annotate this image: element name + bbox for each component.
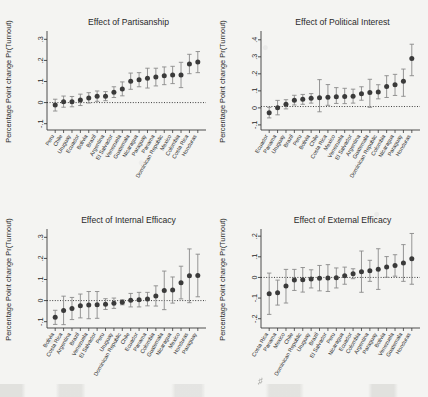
data-point-marker <box>78 303 83 308</box>
panel-internal-efficacy: Percentage Point change Pr(Turnout)Effec… <box>0 198 214 397</box>
y-tick-label: .1 <box>36 79 45 85</box>
data-point-marker <box>111 301 116 306</box>
data-point-marker <box>153 293 158 298</box>
y-tick-label: 0 <box>36 299 45 303</box>
data-point-marker <box>351 271 356 276</box>
data-point-marker <box>78 98 83 103</box>
data-point-marker <box>153 75 158 80</box>
y-tick-label: .2 <box>250 233 259 239</box>
y-tick-label: .3 <box>36 36 45 42</box>
data-point-marker <box>267 291 272 296</box>
data-point-marker <box>359 91 364 96</box>
data-point-marker <box>53 315 58 320</box>
data-point-marker <box>359 269 364 274</box>
data-point-marker <box>128 79 133 84</box>
y-axis-label: Percentage Point change Pr(Turnout) <box>218 218 227 341</box>
data-point-marker <box>292 277 297 282</box>
y-tick-label: -.1 <box>36 119 45 127</box>
data-point-marker <box>300 277 305 282</box>
panel-title: Effect of External Efficacy <box>294 215 392 225</box>
data-point-marker <box>409 256 414 261</box>
data-point-marker <box>95 94 100 99</box>
data-point-marker <box>342 273 347 278</box>
data-point-marker <box>275 105 280 110</box>
data-point-marker <box>351 94 356 99</box>
data-point-marker <box>86 303 91 308</box>
data-point-marker <box>292 98 297 103</box>
data-point-marker <box>69 99 74 104</box>
data-point-marker <box>145 76 150 81</box>
data-point-marker <box>53 103 58 108</box>
y-tick-label: -.1 <box>250 294 259 302</box>
y-tick-label: .3 <box>250 54 259 60</box>
data-point-marker <box>128 298 133 303</box>
y-tick-label: .3 <box>36 234 45 240</box>
data-point-marker <box>137 77 142 82</box>
data-point-marker <box>393 82 398 87</box>
y-axis-label: Percentage Point change Pr(Turnout) <box>218 20 227 143</box>
data-point-marker <box>137 297 142 302</box>
figure-panel-grid: Percentage Point change Pr(Turnout)Effec… <box>0 0 428 397</box>
y-tick-label: .2 <box>36 255 45 261</box>
data-point-marker <box>111 90 116 95</box>
data-point-marker <box>162 288 167 293</box>
y-tick-label: .2 <box>36 57 45 63</box>
data-point-marker <box>300 97 305 102</box>
data-point-marker <box>69 306 74 311</box>
y-tick-label: 0 <box>36 101 45 105</box>
data-point-marker <box>401 260 406 265</box>
y-axis-label: Percentage Point change Pr(Turnout) <box>4 20 13 143</box>
chart-political-interest: Percentage Point change Pr(Turnout)Effec… <box>214 0 428 198</box>
data-point-marker <box>334 94 339 99</box>
data-point-marker <box>61 99 66 104</box>
data-point-marker <box>401 79 406 84</box>
chart-internal-efficacy: Percentage Point change Pr(Turnout)Effec… <box>0 198 214 397</box>
data-point-marker <box>195 273 200 278</box>
panel-title: Effect of Internal Efficacy <box>81 215 176 225</box>
y-tick-label: .1 <box>250 254 259 260</box>
data-point-marker <box>162 73 167 78</box>
data-point-marker <box>187 273 192 278</box>
chart-external-efficacy: Percentage Point change Pr(Turnout)Effec… <box>214 198 428 397</box>
data-point-marker <box>367 268 372 273</box>
data-point-marker <box>275 290 280 295</box>
data-point-marker <box>309 96 314 101</box>
data-point-marker <box>120 86 125 91</box>
y-tick-label: .2 <box>250 71 259 77</box>
data-point-marker <box>376 267 381 272</box>
data-point-marker <box>179 72 184 77</box>
y-tick-label: .1 <box>250 88 259 94</box>
y-axis-label: Percentage Point change Pr(Turnout) <box>4 218 13 341</box>
data-point-marker <box>283 102 288 107</box>
data-point-marker <box>309 276 314 281</box>
data-point-marker <box>61 308 66 313</box>
y-tick-label: -.1 <box>36 317 45 325</box>
data-point-marker <box>267 110 272 115</box>
data-point-marker <box>376 90 381 95</box>
panel-title: Effect of Partisanship <box>88 17 169 27</box>
chart-partisanship: Percentage Point change Pr(Turnout)Effec… <box>0 0 214 198</box>
data-point-marker <box>170 288 175 293</box>
data-point-marker <box>409 56 414 61</box>
data-point-marker <box>317 276 322 281</box>
y-tick-label: -.1 <box>250 121 259 129</box>
y-tick-label: .4 <box>250 37 259 43</box>
y-tick-label: -.2 <box>250 315 259 323</box>
panel-external-efficacy: Percentage Point change Pr(Turnout)Effec… <box>214 198 428 397</box>
data-point-marker <box>86 95 91 100</box>
data-point-marker <box>120 300 125 305</box>
data-point-marker <box>367 90 372 95</box>
y-tick-label: .1 <box>36 277 45 283</box>
panel-title: Effect of Political Interest <box>295 17 390 27</box>
data-point-marker <box>187 61 192 66</box>
data-point-marker <box>317 95 322 100</box>
data-point-marker <box>95 302 100 307</box>
data-point-marker <box>283 284 288 289</box>
data-point-marker <box>103 94 108 99</box>
data-point-marker <box>103 302 108 307</box>
data-point-marker <box>195 60 200 65</box>
scan-artifact-glyph: ♯ <box>258 376 263 386</box>
data-point-marker <box>325 95 330 100</box>
data-point-marker <box>342 94 347 99</box>
data-point-marker <box>179 280 184 285</box>
